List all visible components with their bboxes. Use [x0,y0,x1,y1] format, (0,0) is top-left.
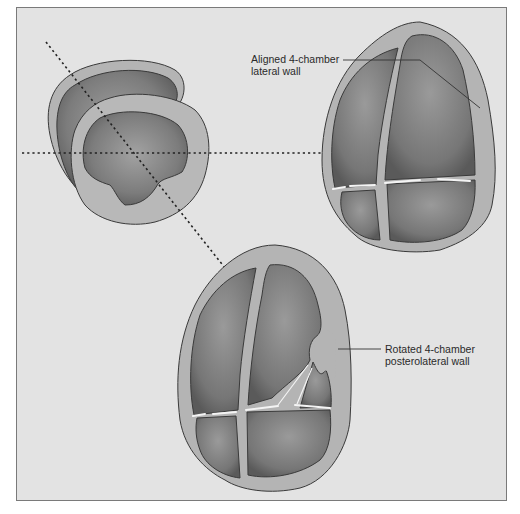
rotated-label-line2: posterolateral wall [385,355,475,367]
heart-diagram [0,0,520,514]
aligned-label-line2: lateral wall [251,65,339,77]
rotated-label-line1: Rotated 4-chamber [385,343,475,355]
short-axis-view [48,60,209,224]
aligned-label: Aligned 4-chamber lateral wall [251,53,339,77]
rotated-4-chamber-view [178,245,351,491]
rotated-label: Rotated 4-chamber posterolateral wall [385,343,475,367]
aligned-4-chamber-view [322,22,495,252]
aligned-label-line1: Aligned 4-chamber [251,53,339,65]
